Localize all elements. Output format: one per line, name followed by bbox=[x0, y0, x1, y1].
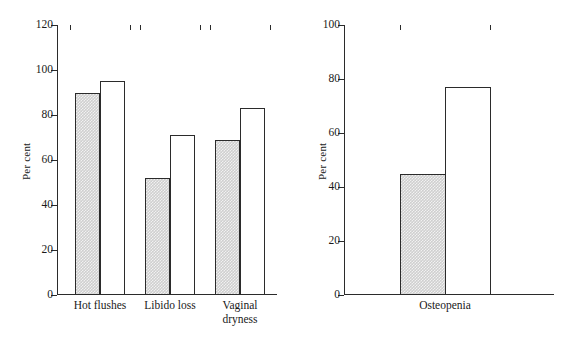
y-tick-label-20: 20 bbox=[42, 244, 54, 256]
category-label-hot-flushes: Hot flushes bbox=[74, 299, 127, 313]
plot-area-right: 100 80 60 40 20 0 bbox=[344, 25, 554, 295]
y-tick-label-40: 40 bbox=[42, 199, 54, 211]
y-tick-label-r-100: 100 bbox=[323, 19, 340, 31]
bar-libido-loss-hatched bbox=[145, 178, 170, 295]
bar-vaginal-dryness-hatched bbox=[215, 140, 240, 295]
bar-hot-flushes-open bbox=[100, 81, 125, 295]
y-tick-label-r-0: 0 bbox=[334, 289, 340, 301]
x-tick-left-5 bbox=[210, 25, 211, 30]
y-tick-label-0: 0 bbox=[47, 289, 53, 301]
bar-hot-flushes-hatched bbox=[75, 93, 100, 296]
plot-area-left: 120 100 80 60 40 20 bbox=[57, 25, 277, 295]
bar-vaginal-dryness-open bbox=[240, 108, 265, 295]
y-tick-label-120: 120 bbox=[36, 19, 53, 31]
y-tick-label-100: 100 bbox=[36, 64, 53, 76]
bar-libido-loss-open bbox=[170, 135, 195, 295]
y-axis-line-left bbox=[57, 25, 58, 295]
y-tick-label-r-20: 20 bbox=[329, 235, 341, 247]
y-axis-label-right: Per cent bbox=[316, 143, 328, 180]
bar-osteopenia-hatched bbox=[400, 174, 446, 296]
y-tick-label-r-60: 60 bbox=[329, 127, 341, 139]
category-label-osteopenia: Osteopenia bbox=[419, 299, 471, 313]
y-axis-label-left: Per cent bbox=[20, 143, 32, 180]
x-tick-left-1 bbox=[70, 25, 71, 30]
figure: Per cent 120 100 80 60 bbox=[0, 0, 567, 341]
x-tick-left-4 bbox=[200, 25, 201, 30]
y-tick-label-80: 80 bbox=[42, 109, 54, 121]
chart-panel-osteopenia: Per cent 100 80 60 40 20 bbox=[300, 0, 567, 341]
x-tick-right-2 bbox=[490, 25, 491, 30]
y-tick-label-r-40: 40 bbox=[329, 181, 341, 193]
x-tick-left-6 bbox=[270, 25, 271, 30]
category-label-libido-loss: Libido loss bbox=[144, 299, 195, 313]
y-axis-line-right bbox=[344, 25, 345, 295]
chart-panel-symptoms: Per cent 120 100 80 60 bbox=[0, 0, 300, 341]
y-tick-label-60: 60 bbox=[42, 154, 54, 166]
x-tick-left-2 bbox=[130, 25, 131, 30]
x-tick-right-1 bbox=[400, 25, 401, 30]
category-label-vaginal-dryness: Vaginal dryness bbox=[222, 299, 257, 326]
bar-osteopenia-open bbox=[445, 87, 491, 295]
x-tick-left-3 bbox=[140, 25, 141, 30]
y-tick-label-r-80: 80 bbox=[329, 73, 341, 85]
